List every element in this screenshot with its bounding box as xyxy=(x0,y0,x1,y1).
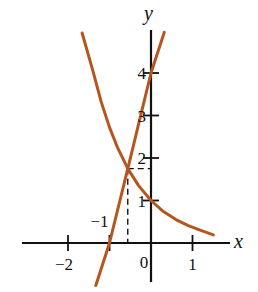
x-tick-label: −1 xyxy=(90,212,108,231)
y-tick-label: 3 xyxy=(138,107,147,126)
y-tick-label: 2 xyxy=(138,149,147,168)
labels: −2−1112340xy xyxy=(55,2,243,274)
decreasing-curve xyxy=(82,33,213,235)
x-tick-label: −2 xyxy=(55,255,73,274)
y-tick-label: 4 xyxy=(138,64,147,83)
axes xyxy=(22,30,230,282)
y-axis-label: y xyxy=(142,2,153,25)
chart: −2−1112340xy xyxy=(0,0,258,292)
x-tick-label: 1 xyxy=(188,255,197,274)
origin-label: 0 xyxy=(140,253,149,272)
x-axis-label: x xyxy=(233,230,243,252)
y-tick-label: 1 xyxy=(138,192,147,211)
